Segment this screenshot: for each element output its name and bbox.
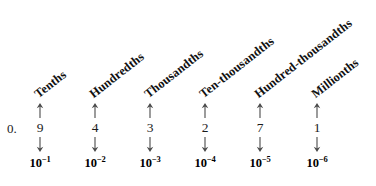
arrow-up-icon (145, 103, 156, 118)
place-value-figure: 0. Tenths910−1Hundredths410−2Thousandths… (0, 0, 376, 186)
power-exponent: −1 (42, 154, 51, 164)
arrow-up-icon (35, 103, 46, 118)
power-base: 10 (249, 156, 262, 170)
place-name-label: Thousandths (142, 47, 205, 100)
power-exponent: −6 (319, 154, 328, 164)
power-of-ten-label: 10−1 (29, 155, 50, 170)
power-base: 10 (194, 156, 207, 170)
arrow-up-icon (200, 103, 211, 118)
place-digit: 4 (92, 121, 99, 135)
power-base: 10 (306, 156, 319, 170)
place-name-label: Hundred-thousandths (252, 16, 354, 100)
arrow-down-icon (200, 137, 211, 152)
power-base: 10 (139, 156, 152, 170)
power-of-ten-label: 10−2 (84, 155, 105, 170)
power-exponent: −2 (97, 154, 106, 164)
place-digit: 3 (147, 121, 154, 135)
power-of-ten-label: 10−3 (139, 155, 160, 170)
power-exponent: −5 (262, 154, 271, 164)
arrow-down-icon (312, 137, 323, 152)
arrow-down-icon (35, 137, 46, 152)
power-exponent: −3 (152, 154, 161, 164)
power-exponent: −4 (207, 154, 216, 164)
place-name-label: Hundredths (87, 50, 146, 100)
place-name-label: Millionths (309, 56, 361, 100)
arrow-down-icon (145, 137, 156, 152)
power-of-ten-label: 10−6 (306, 155, 327, 170)
power-of-ten-label: 10−4 (194, 155, 215, 170)
arrow-down-icon (255, 137, 266, 152)
arrow-up-icon (90, 103, 101, 118)
power-base: 10 (84, 156, 97, 170)
leading-zero-point: 0. (7, 122, 17, 135)
power-of-ten-label: 10−5 (249, 155, 270, 170)
arrow-up-icon (312, 103, 323, 118)
place-digit: 2 (202, 121, 209, 135)
arrow-up-icon (255, 103, 266, 118)
place-digit: 9 (37, 121, 44, 135)
place-digit: 7 (257, 121, 264, 135)
arrow-down-icon (90, 137, 101, 152)
place-name-label: Tenths (32, 68, 68, 100)
power-base: 10 (29, 156, 42, 170)
place-digit: 1 (314, 121, 321, 135)
